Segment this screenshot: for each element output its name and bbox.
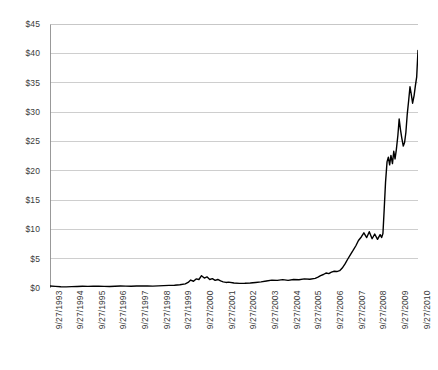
y-axis-tick-label: $30 [26, 107, 40, 117]
x-axis-tick-label: 9/27/2008 [378, 290, 388, 329]
y-axis-tick-label: $35 [26, 78, 40, 88]
price-series-line [50, 50, 418, 286]
x-axis-tick-label: 9/27/1997 [140, 290, 150, 329]
y-axis-tick-label: $10 [26, 224, 40, 234]
x-axis-tick-label: 9/27/2002 [248, 290, 258, 329]
horizontal-gridlines [50, 24, 418, 288]
y-axis-tick-label: $25 [26, 136, 40, 146]
x-axis-tick-label: 9/27/2004 [292, 290, 302, 329]
x-axis-tick-label: 9/27/2005 [313, 290, 323, 329]
x-axis-tick-label: 9/27/1994 [75, 290, 85, 329]
x-axis-tick-label: 9/27/2000 [205, 290, 215, 329]
price-line-chart: $0$5$10$15$20$25$30$35$40$45 9/27/19939/… [0, 0, 438, 370]
y-axis-tick-labels: $0$5$10$15$20$25$30$35$40$45 [0, 0, 46, 296]
y-axis-tick-label: $20 [26, 166, 40, 176]
x-axis-tick-label: 9/27/1999 [183, 290, 193, 329]
x-axis-tick-label: 9/27/1993 [54, 290, 64, 329]
x-axis-tick-label: 9/27/2001 [227, 290, 237, 329]
axis-lines [50, 24, 418, 288]
y-axis-tick-label: $5 [30, 254, 40, 264]
x-axis-tick-label: 9/27/2003 [270, 290, 280, 329]
y-axis-tick-label: $15 [26, 195, 40, 205]
plot-area [50, 24, 418, 288]
x-axis-tick-label: 9/27/1996 [118, 290, 128, 329]
x-axis-tick-label: 9/27/2007 [357, 290, 367, 329]
x-axis-tick-label: 9/27/2006 [335, 290, 345, 329]
x-axis-tick-label: 9/27/2009 [400, 290, 410, 329]
chart-canvas [50, 24, 418, 288]
y-axis-tick-label: $0 [30, 283, 40, 293]
x-axis-tick-label: 9/27/1995 [97, 290, 107, 329]
x-axis-tick-label: 9/27/1998 [162, 290, 172, 329]
x-axis-tick-labels: 9/27/19939/27/19949/27/19959/27/19969/27… [50, 290, 418, 368]
y-axis-tick-label: $45 [26, 19, 40, 29]
y-axis-tick-label: $40 [26, 48, 40, 58]
x-axis-tick-label: 9/27/2010 [422, 290, 432, 329]
